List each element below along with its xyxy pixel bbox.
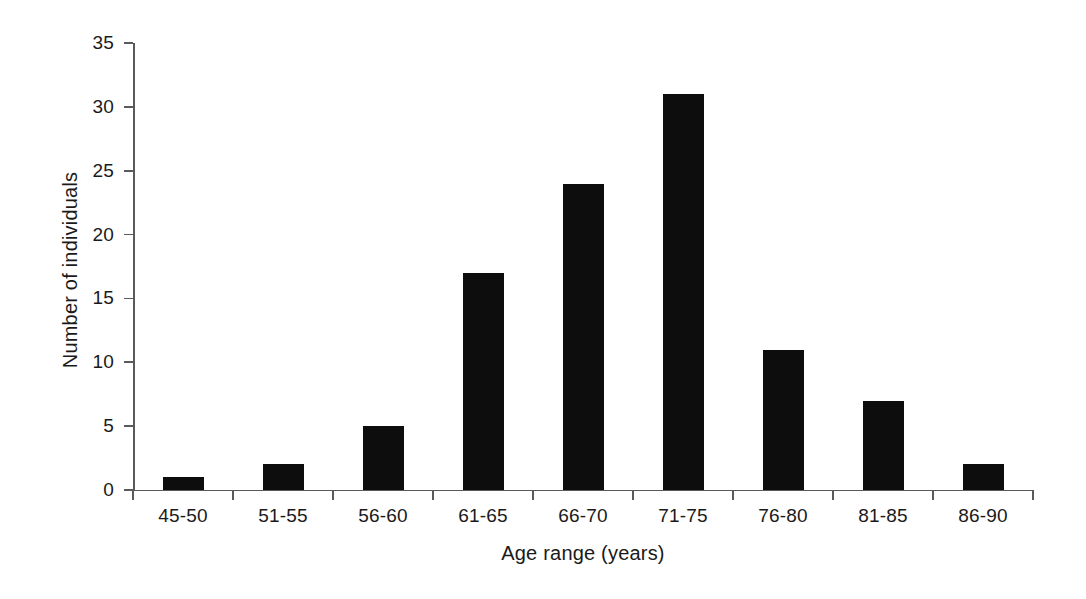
x-axis-tick <box>432 490 434 500</box>
x-axis-tick <box>132 490 134 500</box>
x-axis-tick <box>332 490 334 500</box>
y-axis-tick <box>124 361 133 363</box>
x-axis-tick-label: 66-70 <box>533 505 633 527</box>
bar <box>263 464 304 490</box>
plot-area <box>133 43 1033 490</box>
y-axis-tick-label: 0 <box>52 480 114 499</box>
x-axis-tick-label: 76-80 <box>733 505 833 527</box>
bar <box>763 350 804 490</box>
y-axis-title: Number of individuals <box>58 70 82 470</box>
bar <box>163 477 204 490</box>
x-axis-tick-label: 56-60 <box>333 505 433 527</box>
bar <box>863 401 904 490</box>
y-axis-tick <box>124 425 133 427</box>
x-axis-tick-label: 61-65 <box>433 505 533 527</box>
x-axis-tick <box>232 490 234 500</box>
bar <box>363 426 404 490</box>
bar-chart-figure: 05101520253035 Number of individuals 45-… <box>0 0 1086 599</box>
x-axis-tick <box>932 490 934 500</box>
y-axis-tick-label: 35 <box>52 33 114 52</box>
x-axis-tick-label: 51-55 <box>233 505 333 527</box>
x-axis-tick-label: 71-75 <box>633 505 733 527</box>
y-axis-tick <box>124 170 133 172</box>
y-axis-tick <box>124 42 133 44</box>
bar <box>463 273 504 490</box>
x-axis-tick <box>532 490 534 500</box>
x-axis-tick <box>632 490 634 500</box>
bar <box>963 464 1004 490</box>
y-axis-tick <box>124 106 133 108</box>
x-axis-tick-label: 81-85 <box>833 505 933 527</box>
x-axis-tick <box>732 490 734 500</box>
x-axis-title: Age range (years) <box>133 541 1033 565</box>
y-axis-tick <box>124 234 133 236</box>
x-axis-tick-label: 86-90 <box>933 505 1033 527</box>
x-axis-tick <box>1032 490 1034 500</box>
x-axis-tick-label: 45-50 <box>133 505 233 527</box>
bar <box>563 184 604 491</box>
y-axis-tick <box>124 298 133 300</box>
x-axis-tick <box>832 490 834 500</box>
bar <box>663 94 704 490</box>
